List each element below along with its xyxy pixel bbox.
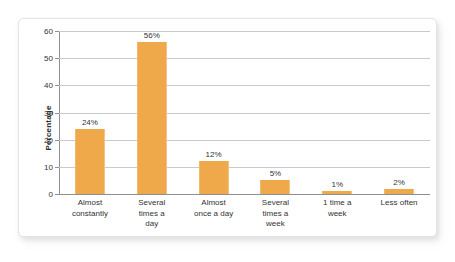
x-axis-label: Severaltimes aweek — [245, 198, 307, 230]
x-axis-label-line: Almost — [59, 198, 121, 209]
x-axis-label: Almostconstantly — [59, 198, 121, 219]
y-axis-tick-label: 20 — [44, 135, 53, 144]
x-axis-label-line: 1 time a — [306, 198, 368, 209]
bar-series: 24%56%12%5%1%2% — [59, 31, 430, 194]
y-axis-tick-label: 50 — [44, 54, 53, 63]
bar-value-label: 1% — [331, 180, 343, 189]
x-axis-label-line: Several — [121, 198, 183, 209]
screenshot-root: Percentage 0102030405060 24%56%12%5%1%2%… — [0, 0, 455, 262]
y-axis-tick-label: 60 — [44, 27, 53, 36]
x-axis-label-line: times a — [245, 209, 307, 220]
bar-slot: 1% — [306, 31, 368, 194]
bar-slot: 5% — [245, 31, 307, 194]
bar-value-label: 5% — [270, 169, 282, 178]
x-axis-label: Severaltimes aday — [121, 198, 183, 230]
x-axis-label: 1 time aweek — [306, 198, 368, 219]
x-axis-label-line: once a day — [183, 209, 245, 220]
y-axis-tick-label: 0 — [49, 190, 53, 199]
y-axis-tick-mark — [55, 194, 59, 195]
x-axis-label-line: times a — [121, 209, 183, 220]
x-axis-label: Almostonce a day — [183, 198, 245, 219]
y-axis-tick-label: 10 — [44, 162, 53, 171]
bar-chart: Percentage 0102030405060 24%56%12%5%1%2%… — [19, 19, 436, 236]
x-axis-label-line: Less often — [368, 198, 430, 209]
bar[interactable] — [322, 191, 352, 194]
x-axis-label-line: week — [306, 209, 368, 220]
bar[interactable] — [199, 161, 229, 194]
bar-slot: 56% — [121, 31, 183, 194]
bar-value-label: 24% — [82, 118, 98, 127]
x-axis-label-line: Several — [245, 198, 307, 209]
gridline — [59, 194, 430, 195]
plot-area: 0102030405060 24%56%12%5%1%2% Almostcons… — [59, 31, 430, 194]
y-axis-tick-label: 30 — [44, 108, 53, 117]
chart-card: Percentage 0102030405060 24%56%12%5%1%2%… — [18, 18, 437, 237]
bar[interactable] — [137, 42, 167, 194]
bar-slot: 12% — [183, 31, 245, 194]
bar[interactable] — [260, 180, 290, 194]
bar-value-label: 56% — [144, 31, 160, 40]
bar-slot: 24% — [59, 31, 121, 194]
bar-value-label: 2% — [393, 178, 405, 187]
bar-slot: 2% — [368, 31, 430, 194]
x-axis-label-line: day — [121, 219, 183, 230]
x-axis-label-line: week — [245, 219, 307, 230]
bar[interactable] — [75, 129, 105, 194]
bar-value-label: 12% — [206, 150, 222, 159]
x-axis-label-line: constantly — [59, 209, 121, 220]
x-axis-label: Less often — [368, 198, 430, 209]
y-axis-tick-label: 40 — [44, 81, 53, 90]
bar[interactable] — [384, 189, 414, 194]
x-axis-label-line: Almost — [183, 198, 245, 209]
